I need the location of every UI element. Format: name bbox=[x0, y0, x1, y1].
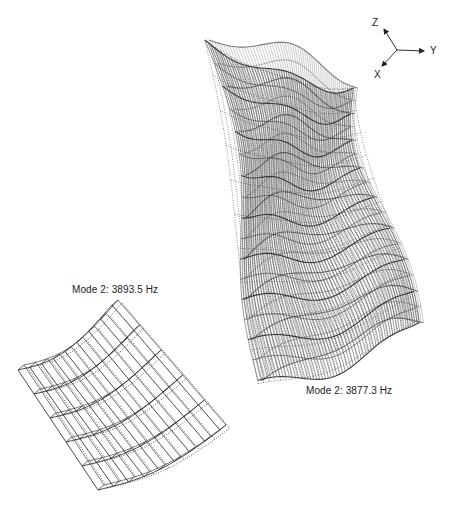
axis-x-label: X bbox=[374, 69, 381, 80]
small-model-mode-label: Mode 2: 3893.5 Hz bbox=[72, 284, 158, 295]
axis-triad-icon bbox=[0, 0, 453, 511]
large-model-mode-label: Mode 2: 3877.3 Hz bbox=[306, 385, 392, 396]
axis-y-label: Y bbox=[430, 45, 437, 56]
axis-z-label: Z bbox=[372, 17, 378, 28]
mode-shape-figure: Z Y X Mode 2: 3893.5 Hz Mode 2: 3877.3 H… bbox=[0, 0, 453, 511]
